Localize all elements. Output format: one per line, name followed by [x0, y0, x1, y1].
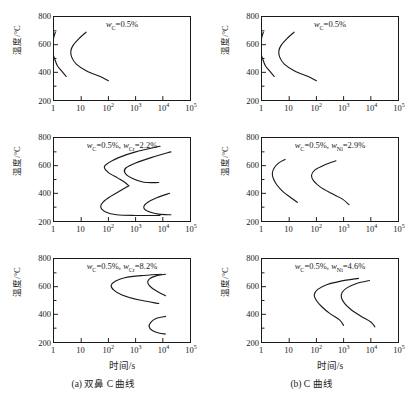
plot-area-a3 — [53, 258, 191, 343]
plot-area-b2 — [261, 137, 399, 222]
plot-area-b3 — [261, 258, 399, 343]
ttt-curve-start-curve — [272, 159, 297, 202]
y-tick-label: 600 — [25, 282, 51, 291]
plot-panel-b1: 温度/°C800600400200wC=0.5%110102103104105 — [208, 6, 415, 126]
y-tick-labels: 800600400200 — [229, 16, 259, 101]
y-tick-labels: 800600400200 — [229, 258, 259, 343]
x-tick-label: 105 — [387, 345, 411, 355]
x-tick-label: 105 — [387, 224, 411, 234]
y-tick-label: 400 — [233, 310, 259, 319]
x-tick-label: 103 — [124, 345, 148, 355]
ttt-curve-finish-curve — [311, 161, 349, 205]
y-tick-label: 600 — [233, 40, 259, 49]
x-tick-label: 105 — [179, 345, 203, 355]
y-tick-label: 400 — [233, 189, 259, 198]
x-tick-labels: 110102103104105 — [261, 224, 399, 238]
plot-area-b1 — [261, 16, 399, 101]
figure-column-b: 温度/°C800600400200wC=0.5%110102103104105温… — [208, 0, 415, 400]
x-tick-label: 102 — [96, 345, 120, 355]
x-tick-label: 103 — [332, 345, 356, 355]
x-tick-label: 105 — [179, 103, 203, 113]
ttt-curve-finish-lower-nose — [144, 193, 171, 214]
curves-canvas — [54, 17, 190, 100]
x-tick-label: 105 — [179, 224, 203, 234]
y-tick-labels: 800600400200 — [21, 258, 51, 343]
x-tick-label: 1 — [249, 345, 273, 355]
y-tick-label: 600 — [233, 161, 259, 170]
x-tick-label: 1 — [41, 103, 65, 113]
subfigure-caption-a: (a) 双鼻 C 曲线 — [0, 376, 207, 390]
x-tick-label: 103 — [124, 103, 148, 113]
plot-panel-a2: 温度/°C800600400200wC=0.5%, wCr=2.2%110102… — [0, 127, 207, 247]
x-tick-label: 104 — [151, 224, 175, 234]
x-tick-label: 103 — [332, 224, 356, 234]
x-tick-label: 10 — [69, 224, 93, 234]
figure-column-a: 温度/°C800600400200wC=0.5%110102103104105温… — [0, 0, 207, 400]
y-tick-label: 800 — [233, 254, 259, 263]
plot-area-a1 — [53, 16, 191, 101]
x-tick-label: 102 — [96, 224, 120, 234]
x-tick-label: 103 — [124, 224, 148, 234]
x-tick-label: 103 — [332, 103, 356, 113]
ttt-curve-finish-curve — [279, 32, 317, 80]
y-tick-label: 800 — [233, 12, 259, 21]
x-tick-label: 102 — [304, 103, 328, 113]
ttt-curve-figure: 温度/°C800600400200wC=0.5%110102103104105温… — [0, 0, 415, 400]
y-tick-label: 600 — [25, 161, 51, 170]
x-tick-label: 104 — [359, 345, 383, 355]
x-tick-label: 104 — [359, 103, 383, 113]
x-tick-label: 10 — [69, 103, 93, 113]
y-tick-label: 400 — [25, 68, 51, 77]
x-tick-label: 102 — [304, 224, 328, 234]
plot-panel-b3: 温度/°C800600400200wC=0.5%, wNi=4.6%110102… — [208, 248, 415, 368]
curves-canvas — [262, 259, 398, 342]
x-tick-label: 10 — [69, 345, 93, 355]
x-tick-labels: 110102103104105 — [261, 103, 399, 117]
y-tick-label: 600 — [25, 40, 51, 49]
plot-panel-a3: 温度/°C800600400200wC=0.5%, wCr=8.2%110102… — [0, 248, 207, 368]
curves-canvas — [262, 138, 398, 221]
x-tick-labels: 110102103104105 — [261, 345, 399, 359]
x-tick-label: 10 — [277, 224, 301, 234]
x-tick-label: 105 — [387, 103, 411, 113]
x-axis-title: 时间/s — [261, 358, 399, 372]
x-tick-labels: 110102103104105 — [53, 224, 191, 238]
x-tick-labels: 110102103104105 — [53, 103, 191, 117]
ttt-curve-finish-curve — [71, 32, 109, 80]
subfigure-caption-b: (b) C 曲线 — [208, 376, 415, 390]
y-tick-label: 800 — [233, 133, 259, 142]
x-axis-title: 时间/s — [53, 358, 191, 372]
x-tick-label: 1 — [41, 345, 65, 355]
x-tick-label: 102 — [304, 345, 328, 355]
plot-area-a2 — [53, 137, 191, 222]
ttt-curve-start-curve — [54, 32, 66, 76]
x-tick-label: 104 — [151, 345, 175, 355]
y-tick-label: 800 — [25, 12, 51, 21]
x-tick-label: 10 — [277, 345, 301, 355]
curves-canvas — [54, 259, 190, 342]
ttt-curve-start-curve — [262, 32, 274, 76]
ttt-curve-finish-upper-nose — [148, 274, 166, 295]
y-tick-labels: 800600400200 — [21, 137, 51, 222]
x-tick-label: 1 — [249, 103, 273, 113]
x-tick-label: 1 — [249, 224, 273, 234]
plot-panel-b2: 温度/°C800600400200wC=0.5%, wNi=2.9%110102… — [208, 127, 415, 247]
ttt-curve-finish-upper-nose — [124, 152, 171, 183]
y-tick-labels: 800600400200 — [229, 137, 259, 222]
y-tick-label: 600 — [233, 282, 259, 291]
y-tick-labels: 800600400200 — [21, 16, 51, 101]
x-tick-label: 104 — [151, 103, 175, 113]
ttt-curve-finish-curve — [341, 280, 375, 326]
y-tick-label: 800 — [25, 133, 51, 142]
ttt-curve-lower-nose — [149, 316, 165, 334]
x-tick-labels: 110102103104105 — [53, 345, 191, 359]
y-tick-label: 800 — [25, 254, 51, 263]
y-tick-label: 400 — [233, 68, 259, 77]
y-tick-label: 400 — [25, 310, 51, 319]
y-tick-label: 400 — [25, 189, 51, 198]
plot-panel-a1: 温度/°C800600400200wC=0.5%110102103104105 — [0, 6, 207, 126]
curves-canvas — [54, 138, 190, 221]
curves-canvas — [262, 17, 398, 100]
ttt-curve-start-upper-nose — [104, 146, 160, 185]
x-tick-label: 102 — [96, 103, 120, 113]
